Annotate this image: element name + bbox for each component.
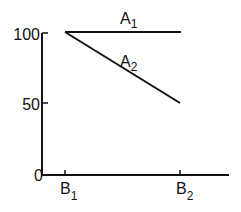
- x-label-b2: B2: [176, 180, 194, 203]
- series-a1-label: A1: [120, 10, 138, 31]
- x-label-b1: B1: [60, 180, 78, 203]
- interaction-chart: 100 50 0 A1 A2 B1 B2: [0, 0, 241, 212]
- y-label-100: 100: [13, 26, 40, 43]
- y-label-50: 50: [22, 96, 40, 113]
- y-label-0: 0: [34, 167, 43, 184]
